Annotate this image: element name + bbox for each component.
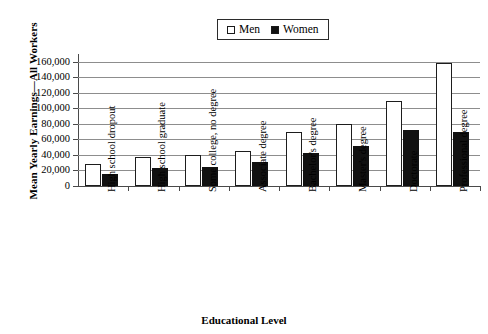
y-tick-mark — [73, 77, 78, 78]
gridline — [78, 108, 480, 109]
y-tick-label: 140,000 — [9, 72, 70, 83]
y-tick-label: 120,000 — [9, 88, 70, 99]
y-tick-label: 100,000 — [9, 103, 70, 114]
y-tick-mark — [73, 62, 78, 63]
chart-legend: Men Women — [217, 19, 329, 40]
bar-men — [336, 124, 352, 186]
x-tick-mark — [329, 186, 330, 191]
hollow-square-icon — [227, 26, 235, 34]
y-tick-mark — [73, 155, 78, 156]
y-tick-mark — [73, 186, 78, 187]
x-tick-mark — [229, 186, 230, 191]
y-tick-label: 160,000 — [9, 57, 70, 68]
bar-men — [436, 63, 452, 186]
y-tick-label: 60,000 — [9, 134, 70, 145]
gridline — [78, 124, 480, 125]
y-tick-mark — [73, 139, 78, 140]
y-tick-mark — [73, 93, 78, 94]
y-tick-label: 40,000 — [9, 150, 70, 161]
bar-men — [135, 157, 151, 187]
bar-men — [185, 155, 201, 186]
x-tick-label: High school graduate — [157, 102, 168, 192]
legend-label-women: Women — [283, 24, 318, 36]
gridline — [78, 62, 480, 63]
x-tick-mark — [380, 186, 381, 191]
bar-men — [286, 132, 302, 186]
legend-label-men: Men — [239, 24, 260, 36]
x-tick-mark — [430, 186, 431, 191]
x-tick-mark — [179, 186, 180, 191]
x-tick-label: Professional degree — [459, 109, 470, 192]
filled-square-icon — [271, 26, 279, 34]
bar-men — [386, 101, 402, 186]
x-tick-label: Bachelor's degree — [308, 118, 319, 192]
y-tick-label: 80,000 — [9, 119, 70, 130]
y-axis-line — [78, 54, 79, 187]
gridline — [78, 77, 480, 78]
bar-chart: Men Women Mean Yearly Earnings—All Worke… — [0, 0, 488, 334]
gridline — [78, 139, 480, 140]
x-tick-label: Some college, no degree — [208, 89, 219, 192]
x-tick-label: Master's degree — [358, 126, 369, 192]
x-tick-label: Associate degree — [258, 121, 269, 192]
bar-men — [235, 151, 251, 186]
bar-men — [85, 164, 101, 186]
y-tick-label: 20,000 — [9, 165, 70, 176]
y-tick-mark — [73, 108, 78, 109]
legend-entry-women: Women — [271, 24, 318, 36]
x-tick-mark — [128, 186, 129, 191]
x-tick-mark — [480, 186, 481, 191]
legend-entry-men: Men — [227, 24, 260, 36]
x-axis-title: Educational Level — [0, 314, 488, 326]
x-tick-label: Doctorate — [409, 151, 420, 192]
y-tick-mark — [73, 124, 78, 125]
plot-area — [78, 54, 480, 186]
x-tick-mark — [279, 186, 280, 191]
gridline — [78, 93, 480, 94]
y-tick-label: 0 — [9, 181, 70, 192]
y-tick-mark — [73, 170, 78, 171]
x-tick-label: High school dropout — [107, 106, 118, 192]
